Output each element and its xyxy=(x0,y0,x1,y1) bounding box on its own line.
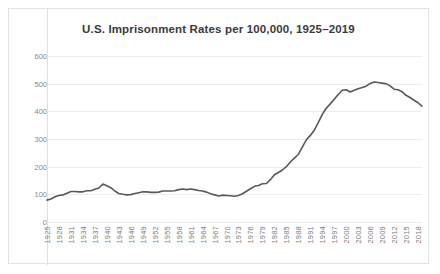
x-axis-tick-label: 1973 xyxy=(234,226,243,244)
x-axis-tick-label: 1979 xyxy=(258,226,267,244)
x-axis-tick-label: 1934 xyxy=(79,226,88,244)
y-axis-tick-label: 600 xyxy=(13,52,47,61)
x-axis-tick-label: 1931 xyxy=(67,226,76,244)
x-axis-tick-label: 2015 xyxy=(402,226,411,244)
x-axis-tick-label: 1961 xyxy=(187,226,196,244)
x-axis-tick-label: 1985 xyxy=(282,226,291,244)
x-axis-tick-label: 2003 xyxy=(354,226,363,244)
x-axis-tick-label: 1991 xyxy=(306,226,315,244)
x-axis-tick-label: 2018 xyxy=(414,226,423,244)
x-axis-tick-label: 1997 xyxy=(330,226,339,244)
x-axis-tick-label: 1943 xyxy=(115,226,124,244)
x-axis-tick-label: 1928 xyxy=(55,226,64,244)
plot-area: 0100200300400500600 19251928193119341937… xyxy=(9,9,430,265)
x-axis-tick-label: 1925 xyxy=(43,226,52,244)
y-axis-tick-label: 400 xyxy=(13,107,47,116)
y-axis-tick-label: 200 xyxy=(13,162,47,171)
y-axis: 0100200300400500600 xyxy=(13,9,47,265)
x-axis-tick-label: 1937 xyxy=(91,226,100,244)
x-axis-tick-label: 1955 xyxy=(163,226,172,244)
x-axis-tick-label: 2009 xyxy=(378,226,387,244)
x-axis-tick-label: 1988 xyxy=(294,226,303,244)
x-axis-tick-label: 2000 xyxy=(342,226,351,244)
x-axis-tick-label: 1958 xyxy=(175,226,184,244)
x-axis-tick-label: 2006 xyxy=(366,226,375,244)
x-axis-tick-label: 1946 xyxy=(127,226,136,244)
y-axis-tick-label: 500 xyxy=(13,79,47,88)
x-axis-tick-label: 1967 xyxy=(211,226,220,244)
x-axis-tick-label: 1964 xyxy=(199,226,208,244)
x-axis-tick-label: 1952 xyxy=(151,226,160,244)
x-axis: 1925192819311934193719401943194619491952… xyxy=(47,9,422,265)
y-axis-tick-label: 300 xyxy=(13,135,47,144)
x-axis-tick-label: 1940 xyxy=(103,226,112,244)
x-axis-tick-label: 1970 xyxy=(223,226,232,244)
chart-container: U.S. Imprisonment Rates per 100,000, 192… xyxy=(8,8,429,264)
x-axis-tick-label: 1982 xyxy=(270,226,279,244)
y-axis-tick-label: 0 xyxy=(13,218,47,227)
x-axis-tick-label: 1976 xyxy=(246,226,255,244)
y-axis-tick-label: 100 xyxy=(13,190,47,199)
x-axis-tick-label: 1994 xyxy=(318,226,327,244)
x-axis-tick-label: 2012 xyxy=(390,226,399,244)
x-axis-tick-label: 1949 xyxy=(139,226,148,244)
